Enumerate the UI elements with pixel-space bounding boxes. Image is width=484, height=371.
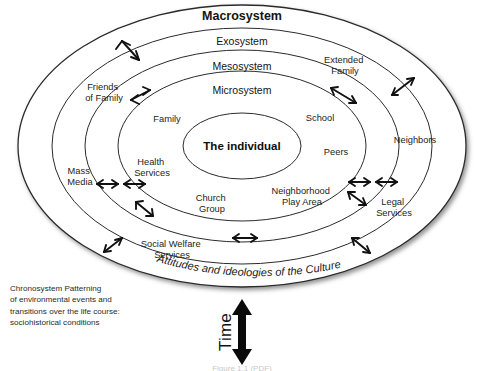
label-mass-media: Mass Media [67,166,93,187]
label-peers: Peers [324,147,349,157]
label-health-services: Health Services [134,157,170,178]
label-macrosystem: Macrosystem [202,9,282,23]
label-family: Family [153,114,181,124]
label-exosystem: Exosystem [216,35,268,47]
label-neighbors: Neighbors [394,135,437,145]
label-school: School [306,113,334,123]
ecological-systems-diagram: Macrosystem Exosystem Mesosystem Microsy… [0,0,484,371]
chronosystem-line-1: Chronosystem Patterning [10,283,170,294]
label-friends-of-family: Friends of Family [85,82,123,103]
label-the-individual: The individual [203,140,280,152]
chronosystem-line-4: sociohistorical conditions [10,317,170,328]
chronosystem-line-3: transitions over the life course: [10,306,170,317]
label-microsystem: Microsystem [213,84,272,96]
label-church-group: Church Group [196,193,229,214]
time-axis-label: Time [216,302,236,362]
chronosystem-note: Chronosystem Patterning of environmental… [10,283,170,329]
figure-caption: Figure 1.1 (PDF) [0,364,484,371]
label-mesosystem: Mesosystem [213,60,272,72]
chronosystem-line-2: of environmental events and [10,294,170,305]
